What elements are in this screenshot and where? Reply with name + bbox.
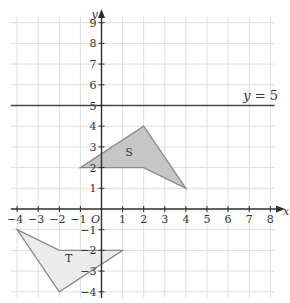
x-tick-label: 5 (204, 213, 211, 226)
x-axis-label: x (283, 205, 290, 218)
x-tick-label: 6 (225, 213, 232, 226)
y-tick-label: 7 (90, 58, 97, 71)
x-tick-label: −3 (28, 213, 44, 226)
coordinate-diagram: ST y = 5 −4−3−2−112345678987654321−1−2−3… (0, 0, 290, 303)
x-tick-label: 4 (182, 213, 189, 226)
y-tick-label: −3 (80, 265, 96, 278)
x-tick-label: 8 (267, 213, 274, 226)
x-tick-label: −4 (7, 213, 23, 226)
y-tick-label: 1 (90, 182, 97, 195)
line-label: y = 5 (242, 88, 278, 103)
x-tick-label: 2 (140, 213, 147, 226)
x-tick-label: −2 (49, 213, 65, 226)
y-tick-label: 4 (90, 120, 97, 133)
y-tick-label: 5 (90, 100, 97, 113)
line-y-equals-5: y = 5 (11, 88, 278, 106)
y-tick-label: −2 (80, 244, 96, 257)
origin-label: O (91, 213, 100, 226)
x-tick-label: 7 (246, 213, 253, 226)
x-tick-label: 3 (161, 213, 168, 226)
y-tick-label: 3 (90, 141, 97, 154)
shape-label-t: T (65, 252, 73, 265)
y-axis-arrow-icon (98, 9, 105, 18)
shape-label-s: S (125, 146, 133, 159)
coordinate-plane: ST y = 5 −4−3−2−112345678987654321−1−2−3… (0, 0, 290, 303)
y-axis-label: y (90, 8, 98, 21)
y-tick-label: 6 (90, 79, 97, 92)
y-tick-label: −4 (80, 286, 96, 299)
x-tick-label: 1 (119, 213, 126, 226)
y-tick-label: 8 (90, 37, 97, 50)
shape-s (80, 126, 185, 188)
y-tick-label: 2 (90, 162, 97, 175)
